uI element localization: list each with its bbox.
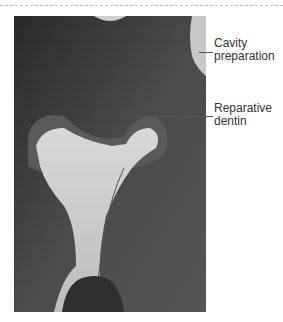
micrograph-image [14,16,206,312]
top-rule [0,5,283,6]
reparative-label-line2: dentin [214,115,272,128]
cavity-preparation-label: Cavity preparation [214,37,275,63]
cavity-label-line2: preparation [214,50,275,63]
reparative-dentin-label: Reparative dentin [214,102,272,128]
reparative-leader-line [131,116,213,117]
cavity-leader-line [199,52,213,53]
